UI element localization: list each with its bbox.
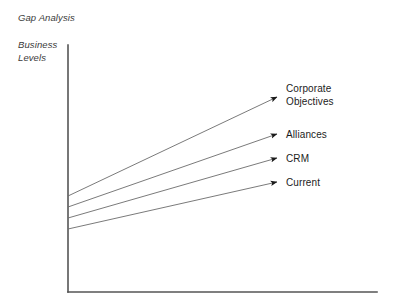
series-arrow-corporate-objectives: [68, 97, 277, 196]
series-label-corporate-objectives: Corporate: [286, 83, 332, 94]
chart-title: Gap Analysis: [18, 12, 75, 23]
series-label-crm: CRM: [286, 153, 309, 164]
y-axis-label-line1: Business: [18, 39, 57, 50]
series-arrow-crm: [68, 158, 277, 218]
series-lines-group: [68, 97, 277, 229]
series-label-alliances: Alliances: [286, 129, 327, 140]
series-labels-group: CorporateObjectivesAlliancesCRMCurrent: [286, 83, 334, 188]
chart-canvas: Gap Analysis Business Levels CorporateOb…: [0, 0, 394, 308]
series-arrow-current: [68, 182, 277, 229]
gap-analysis-figure: Gap Analysis Business Levels CorporateOb…: [0, 0, 394, 308]
series-label-current: Current: [286, 177, 320, 188]
series-arrow-alliances: [68, 134, 277, 207]
series-label-corporate-objectives-line2: Objectives: [286, 96, 334, 107]
y-axis-label-line2: Levels: [18, 52, 46, 63]
